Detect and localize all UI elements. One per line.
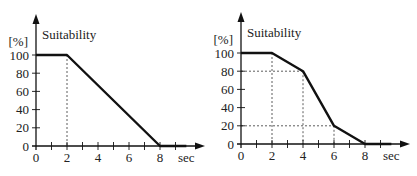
y-tick-label: 0 (23, 139, 30, 154)
y-tick-label: 40 (221, 100, 234, 115)
y-axis-label: [%] (9, 34, 29, 49)
chart-title: Suitability (247, 25, 302, 40)
y-tick-label: 100 (215, 46, 235, 61)
x-tick-label: 6 (331, 148, 338, 163)
left-chart: 02040608010002468sec[%]Suitability (9, 14, 206, 165)
suitability-line (36, 55, 186, 146)
y-axis-arrow-icon (33, 14, 40, 24)
right-chart: 02040608010002468sec[%]Suitability (214, 12, 411, 163)
y-tick-label: 80 (221, 64, 234, 79)
x-tick-label: 2 (64, 150, 71, 165)
chart-title: Suitability (42, 27, 97, 42)
x-axis-label: sec (383, 148, 400, 163)
suitability-charts: 02040608010002468sec[%]Suitability020406… (0, 0, 417, 176)
suitability-line (241, 53, 391, 144)
y-axis-label: [%] (214, 32, 234, 47)
x-axis-arrow-icon (195, 143, 205, 150)
x-tick-label: 6 (126, 150, 133, 165)
x-tick-label: 0 (238, 148, 245, 163)
x-tick-label: 4 (95, 150, 102, 165)
x-tick-label: 2 (269, 148, 276, 163)
y-tick-label: 20 (16, 120, 29, 135)
y-tick-label: 0 (228, 137, 235, 152)
x-tick-label: 8 (362, 148, 369, 163)
y-tick-label: 60 (221, 82, 234, 97)
x-tick-label: 4 (300, 148, 307, 163)
y-axis-arrow-icon (238, 12, 245, 22)
x-tick-label: 0 (33, 150, 40, 165)
x-tick-label: 8 (157, 150, 164, 165)
y-tick-label: 80 (16, 66, 29, 81)
y-tick-label: 60 (16, 84, 29, 99)
y-tick-label: 40 (16, 102, 29, 117)
y-tick-label: 20 (221, 118, 234, 133)
y-tick-label: 100 (10, 48, 30, 63)
x-axis-arrow-icon (400, 141, 410, 148)
x-axis-label: sec (178, 150, 195, 165)
